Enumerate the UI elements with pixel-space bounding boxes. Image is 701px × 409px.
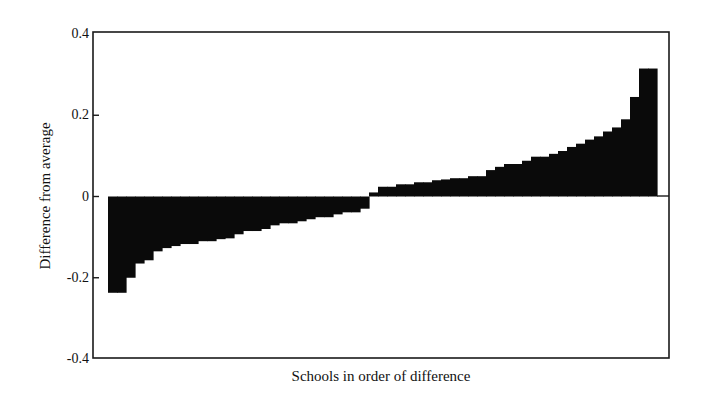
bar — [135, 197, 145, 264]
bar — [486, 170, 496, 196]
bar — [378, 187, 388, 197]
y-tick-label: 0 — [49, 189, 89, 205]
bar — [450, 178, 460, 196]
bar — [612, 127, 622, 196]
y-tick-label: 0.2 — [49, 107, 89, 123]
x-axis-label: Schools in order of difference — [292, 368, 471, 385]
bar — [198, 197, 208, 242]
bar — [459, 178, 469, 196]
bar — [171, 197, 181, 247]
bar — [288, 197, 298, 224]
bar — [387, 187, 397, 197]
bar — [522, 161, 532, 197]
bar — [369, 192, 379, 196]
bar — [306, 197, 316, 220]
bar — [621, 119, 631, 196]
bar — [243, 197, 253, 232]
bar — [153, 197, 163, 252]
bar — [279, 197, 289, 224]
bars-group — [108, 69, 658, 293]
bar — [126, 197, 136, 278]
bar — [441, 179, 451, 196]
bar — [594, 136, 604, 196]
bar — [225, 197, 235, 239]
bar — [576, 144, 586, 197]
bar — [207, 197, 217, 242]
bar — [315, 197, 325, 218]
bar — [396, 184, 406, 196]
y-tick-label: -0.4 — [49, 351, 89, 367]
bar — [432, 180, 442, 196]
bar — [270, 197, 280, 226]
bar — [567, 147, 577, 197]
bar — [540, 157, 550, 197]
bar — [603, 132, 613, 197]
plot-area — [0, 0, 701, 409]
bar — [405, 184, 415, 196]
bar — [333, 197, 343, 215]
y-tick-label: -0.2 — [49, 270, 89, 286]
bar — [495, 167, 505, 197]
y-axis-ticks — [93, 115, 99, 278]
bar — [513, 164, 523, 197]
bar — [531, 157, 541, 197]
bar — [639, 69, 649, 197]
bar — [504, 164, 514, 197]
bar — [549, 154, 559, 197]
bar — [252, 197, 262, 232]
bar — [144, 197, 154, 261]
bar — [189, 197, 199, 245]
bar — [414, 182, 424, 196]
bar — [360, 197, 370, 209]
bar — [585, 140, 595, 197]
bar — [180, 197, 190, 245]
y-axis-label: Difference from average — [37, 122, 54, 269]
bar — [423, 182, 433, 196]
bar — [648, 69, 658, 197]
bar — [468, 176, 478, 196]
y-tick-label: 0.4 — [49, 26, 89, 42]
bar — [297, 197, 307, 222]
bar — [630, 97, 640, 197]
bar — [342, 197, 352, 213]
bar — [216, 197, 226, 240]
chart: 0.40.20-0.2-0.4 Difference from average … — [0, 0, 701, 409]
bar — [108, 197, 118, 293]
bar — [324, 197, 334, 218]
bar — [162, 197, 172, 249]
bar — [351, 197, 361, 213]
bar — [558, 151, 568, 197]
bar — [477, 176, 487, 196]
bar — [117, 197, 127, 293]
bar — [234, 197, 244, 235]
bar — [261, 197, 271, 230]
